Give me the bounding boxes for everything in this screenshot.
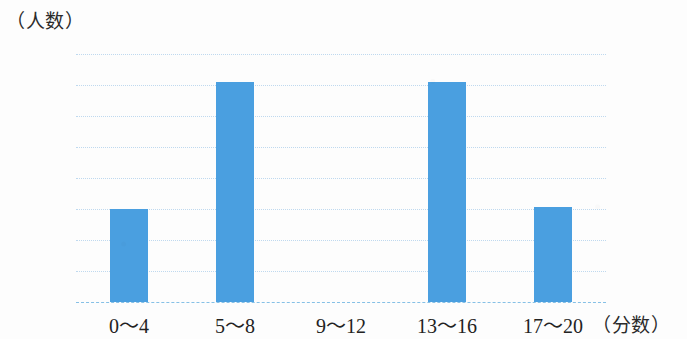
x-axis-tick-label: 9～12 bbox=[281, 310, 401, 339]
bar-slot bbox=[288, 54, 394, 302]
x-axis-label: （分数） bbox=[592, 310, 670, 337]
bar-slot bbox=[182, 54, 288, 302]
bar-series bbox=[76, 54, 606, 302]
bar bbox=[428, 82, 466, 302]
x-axis-tick-label: 5～8 bbox=[175, 310, 295, 339]
bar bbox=[110, 209, 148, 302]
bar bbox=[216, 82, 254, 302]
plot-area: 0246810121416 0～45～89～1213～1617～20 bbox=[76, 54, 606, 302]
axis-baseline bbox=[76, 302, 606, 303]
bar-chart-figure: （人数） 0246810121416 0～45～89～1213～1617～20 … bbox=[0, 0, 687, 339]
bar bbox=[534, 207, 572, 302]
x-axis-tick-label: 13～16 bbox=[387, 310, 507, 339]
x-axis-tick-label: 0～4 bbox=[69, 310, 189, 339]
y-axis-label: （人数） bbox=[6, 6, 84, 33]
bar-slot bbox=[500, 54, 606, 302]
bar-slot bbox=[76, 54, 182, 302]
bar-slot bbox=[394, 54, 500, 302]
